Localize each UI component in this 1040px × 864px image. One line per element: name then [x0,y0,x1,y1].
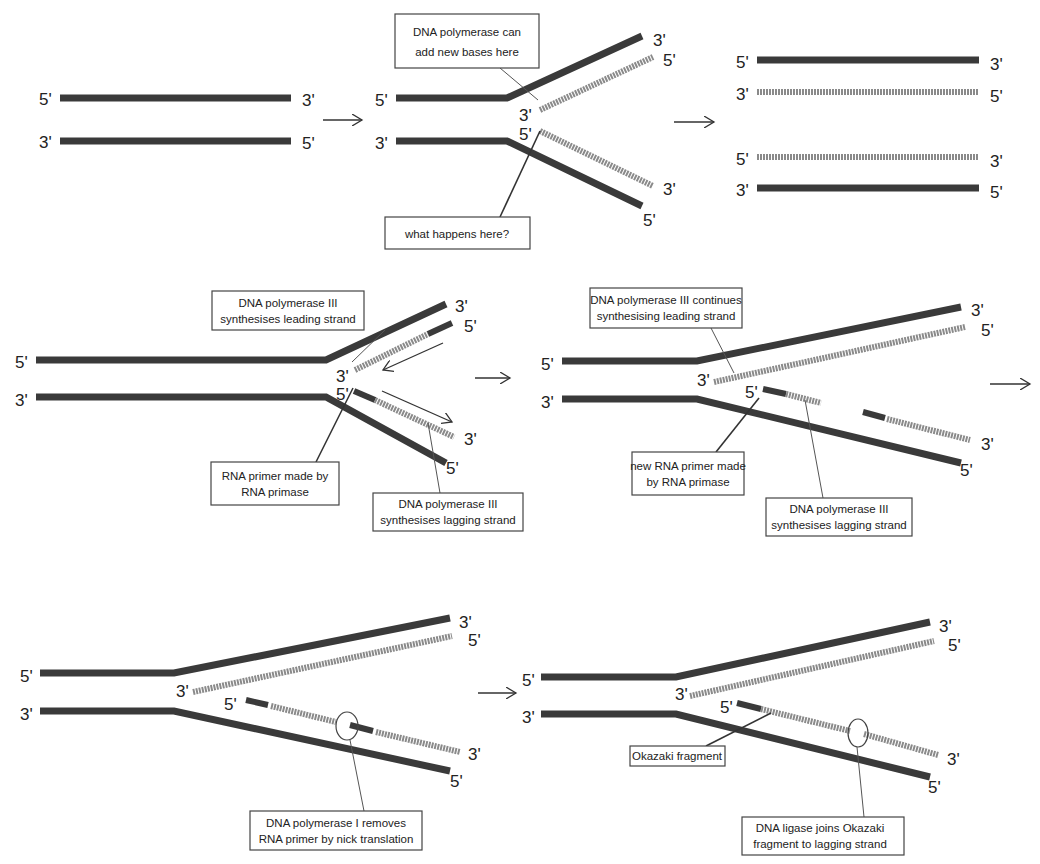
callout-box [395,14,539,68]
parent-strand-top [541,622,930,677]
callout-text: DNA polymerase can [413,26,521,38]
callout-text: Okazaki fragment [632,750,723,762]
rna-primer-leading [428,323,452,334]
panel-parent-dna: 5' 3' 3' 5' [39,90,315,153]
end-label: 3' [697,371,710,390]
panel-ligation: 5' 3' 3' 5' 3' 5' 3' 5' Okazaki fragment… [522,617,961,855]
panel-synthesis-continues: 5' 3' 3' 5' 3' 5' 3' 5' DNA polymerase I… [541,288,994,536]
end-label: 3' [675,685,688,704]
callout-text: new RNA primer made [630,460,746,472]
callout-text: synthesises lagging strand [771,519,907,531]
panel-synthesis-start: 5' 3' 3' 5' 3' 5' 3' 5' DNA polymerase I… [15,291,523,531]
end-label: 3' [990,152,1003,171]
callout-text: DNA polymerase III [238,297,337,309]
end-label: 3' [455,297,468,316]
parent-strand-bottom [562,399,961,463]
end-label: 3' [20,705,33,724]
end-label: 3' [15,391,28,410]
panel-daughter-dna: 5' 3' 5' 3' 3' 5' 3' 5' [736,53,1003,202]
end-label: 3' [302,91,315,110]
callout-text: RNA primer by nick translation [259,833,414,845]
callout-text: by RNA primase [646,476,729,488]
callout-leader [711,328,734,373]
callout-text: add new bases here [415,46,519,58]
okazaki-fragment-old [887,419,970,440]
end-label: 3' [653,31,666,50]
callout-text: DNA polymerase III [789,503,888,515]
end-label: 5' [663,51,676,70]
new-strand-lagging [540,131,653,186]
dna-replication-diagram: 5' 3' 3' 5' 5' 3' 3' 5' 3' 5' 3' 5' DNA … [0,0,1040,864]
okazaki-fragment [761,709,850,731]
callout-text: synthesising leading strand [597,310,736,322]
callout-text: fragment to lagging strand [753,838,887,850]
parent-strand-bottom [36,397,446,463]
okazaki-fragment-old [376,732,460,752]
callout-text: DNA ligase joins Okazaki [756,822,884,834]
rna-primer-old [863,412,885,418]
callout-text: DNA polymerase III [398,498,497,510]
callout-leader [706,713,771,746]
panel-replication-fork: 5' 3' 3' 5' 3' 5' 3' 5' DNA polymerase c… [375,14,676,249]
direction-arrow-icon [383,343,443,370]
parent-strand-bottom [396,141,642,206]
end-label: 3' [459,613,472,632]
end-label: 5' [522,671,535,690]
callout-text: RNA primase [241,486,309,498]
end-label: 3' [971,301,984,320]
end-label: 5' [302,134,315,153]
end-label: 5' [15,353,28,372]
rna-primer-lagging [354,391,375,400]
callout-text: what happens here? [404,228,509,240]
end-label: 3' [736,181,749,200]
end-label: 3' [39,133,52,152]
panel-primer-removal: 5' 3' 3' 5' 3' 5' 3' 5' DNA polymerase I… [20,613,481,850]
callout-text: DNA polymerase III continues [590,294,742,306]
okazaki-fragment-dna [737,703,761,709]
end-label: 3' [981,435,994,454]
rna-primer [246,700,268,705]
end-label: 5' [981,321,994,340]
end-label: 5' [39,90,52,109]
end-label: 5' [519,125,532,144]
callout-text: RNA primer made by [222,470,329,482]
end-label: 5' [928,778,941,797]
end-label: 5' [990,87,1003,106]
end-label: 5' [990,183,1003,202]
end-label: 5' [446,459,459,478]
callout-box [632,452,744,495]
end-label: 3' [468,745,481,764]
end-label: 5' [720,698,733,717]
end-label: 5' [450,772,463,791]
end-label: 5' [224,695,237,714]
end-label: 3' [947,750,960,769]
callout-text: synthesises lagging strand [380,514,516,526]
end-label: 3' [464,430,477,449]
end-label: 3' [375,134,388,153]
parent-strand-top [40,618,450,673]
end-label: 3' [990,55,1003,74]
callout-text: DNA polymerase I removes [266,817,406,829]
end-label: 5' [736,150,749,169]
new-strand-leading [540,57,653,110]
end-label: 5' [745,383,758,402]
end-label: 3' [176,682,189,701]
end-label: 5' [541,355,554,374]
end-label: 5' [375,91,388,110]
end-label: 5' [643,211,656,230]
end-label: 5' [468,631,481,650]
end-label: 3' [522,708,535,727]
callout-text: synthesises leading strand [220,313,356,325]
end-label: 3' [519,106,532,125]
dna-replaced-primer [350,725,373,731]
end-label: 5' [960,461,973,480]
end-label: 3' [336,367,349,386]
rna-primer-new [763,389,786,394]
parent-strand-bottom [541,714,930,777]
okazaki-fragment-new [786,394,821,403]
end-label: 5' [20,667,33,686]
okazaki-fragment [271,706,336,722]
end-label: 5' [464,317,477,336]
callout-box [211,462,339,505]
end-label: 5' [948,636,961,655]
